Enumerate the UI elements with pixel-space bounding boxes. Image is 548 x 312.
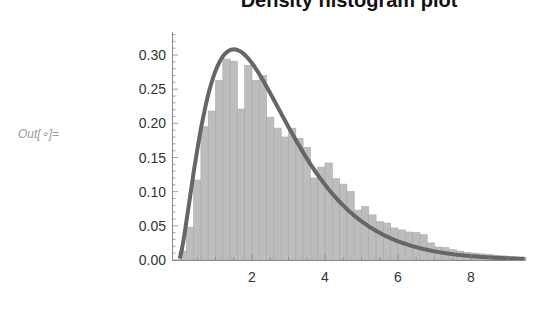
histogram-bar [296,138,303,260]
histogram-bar [201,127,208,260]
y-tick-label: 0.25 [139,81,166,97]
x-tick-label: 4 [321,269,329,285]
y-tick-label: 0.00 [139,252,166,268]
histogram-bar [347,192,354,260]
histogram-bar [252,80,259,260]
histogram-bars [179,59,522,260]
histogram-bar [216,80,223,260]
histogram-bar [208,111,215,260]
histogram-bar [186,227,193,260]
histogram-bar [274,128,281,260]
x-tick-label: 6 [394,269,402,285]
histogram-bar [245,65,252,260]
histogram-bar [194,180,201,260]
histogram-bar [289,128,296,260]
histogram-bar [281,137,288,260]
histogram-bar [259,76,266,260]
x-tick-label: 2 [248,269,256,285]
histogram-bar [383,223,390,260]
histogram-bar [362,207,369,260]
histogram-bar [376,222,383,260]
x-tick-label: 8 [467,269,475,285]
histogram-bar [310,178,317,260]
histogram-bar [369,215,376,260]
histogram-bar [325,163,332,260]
histogram-bar [230,61,237,260]
histogram-bar [391,228,398,260]
y-tick-label: 0.05 [139,218,166,234]
histogram-bar [267,117,274,260]
y-tick-label: 0.30 [139,47,166,63]
y-tick-label: 0.20 [139,115,166,131]
histogram-bar [332,179,339,260]
histogram-chart: 0.000.050.100.150.200.250.302468 [0,0,548,312]
y-tick-label: 0.15 [139,150,166,166]
histogram-bar [340,184,347,260]
y-tick-label: 0.10 [139,184,166,200]
histogram-bar [237,109,244,260]
histogram-bar [223,59,230,260]
